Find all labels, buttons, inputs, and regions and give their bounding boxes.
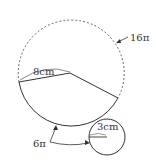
base-radius-label: 3cm	[97, 121, 119, 132]
base-radius-brace	[90, 134, 106, 136]
large-circle-arc-label: 16π	[130, 32, 150, 43]
cone-net-diagram: 8cm 16π 3cm 6π	[0, 0, 156, 165]
sector-radius-right	[70, 73, 118, 98]
arc-length-label: 6π	[33, 138, 46, 149]
arrowhead-up-icon	[53, 125, 58, 130]
slant-height-label: 8cm	[33, 66, 55, 77]
large-circle-dashed-arc	[18, 20, 124, 98]
arrowhead-icon	[116, 39, 121, 43]
